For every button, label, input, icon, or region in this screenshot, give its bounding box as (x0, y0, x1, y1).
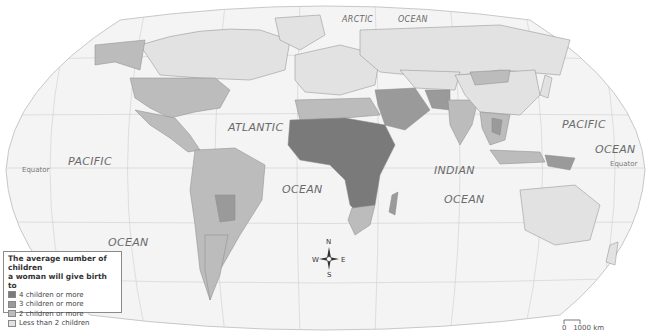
legend-label: 3 children or more (19, 300, 84, 308)
ocean-label-pacific-east-ocean: OCEAN (595, 143, 636, 156)
legend-item: 3 children or more (8, 300, 117, 310)
legend-item: Less than 2 children (8, 319, 117, 329)
legend-swatch-less-two (8, 320, 16, 327)
legend-swatch-two-plus (8, 310, 16, 317)
ocean-label-indian: INDIAN (434, 164, 475, 177)
equator-label-right: Equator (610, 160, 638, 168)
compass-star-icon (311, 238, 347, 282)
ocean-label-atlantic-ocean: OCEAN (282, 183, 323, 196)
ocean-label-arctic: ARCTIC (342, 15, 373, 24)
legend-title-line1: The average number of children (8, 254, 117, 272)
world-map: ARCTIC OCEAN PACIFIC ATLANTIC OCEAN INDI… (0, 0, 650, 336)
legend-title-line2: a woman will give birth to (8, 272, 117, 290)
legend: The average number of children a woman w… (3, 251, 122, 313)
scale-bar: 0 1000 km (562, 319, 622, 335)
indonesia (490, 150, 545, 164)
compass-rose: N W E S (311, 238, 347, 282)
legend-label: 2 children or more (19, 310, 84, 318)
scale-zero: 0 (562, 324, 566, 332)
legend-item: 2 children or more (8, 309, 117, 319)
legend-label: 4 children or more (19, 291, 84, 299)
laos-cambodia (492, 118, 502, 135)
scale-label: 0 1000 km (562, 324, 604, 332)
ocean-label-pacific-west-ocean: OCEAN (108, 236, 149, 249)
ocean-label-pacific-east: PACIFIC (562, 118, 606, 131)
ocean-label-pacific-west: PACIFIC (68, 155, 112, 168)
ocean-label-indian-ocean: OCEAN (444, 193, 485, 206)
legend-swatch-three-plus (8, 301, 16, 308)
scale-distance: 1000 km (573, 324, 604, 332)
legend-swatch-four-plus (8, 291, 16, 298)
ocean-label-arctic-ocean: OCEAN (398, 15, 428, 24)
equator-label-left: Equator (22, 166, 50, 174)
ocean-label-atlantic: ATLANTIC (228, 121, 283, 134)
legend-label: Less than 2 children (19, 319, 90, 327)
legend-item: 4 children or more (8, 290, 117, 300)
